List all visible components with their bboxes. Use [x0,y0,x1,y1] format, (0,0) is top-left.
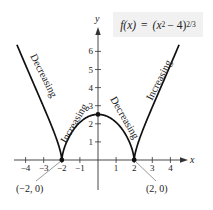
x-tick-label: −1 [75,163,85,173]
y-axis-label: y [94,13,100,24]
x-tick-label: 1 [114,163,119,173]
x-tick-label: −2 [57,163,67,173]
y-tick-label: 5 [89,65,94,75]
point-label-left: (−2, 0) [16,183,43,195]
label-decreasing-left: Decreasing [28,52,60,100]
y-tick-label: 1 [89,137,94,147]
y-tick-label: 6 [89,46,94,56]
y-axis-arrow-icon [95,27,100,35]
label-increasing-right: Increasing [144,57,174,102]
y-axis: y [94,13,101,190]
x-tick-label: 4 [168,163,173,173]
point-local-max [96,112,101,117]
point-label-right: (2, 0) [146,183,168,195]
y-tick-label: 4 [89,83,94,93]
x-axis-arrow-icon [180,157,188,162]
x-ticks: −4−3−2−11234 [21,157,173,173]
y-ticks: 123456 [89,46,102,146]
label-increasing-left: Increasing [58,101,90,145]
x-tick-label: −4 [21,163,31,173]
y-tick-label: 2 [89,119,94,129]
x-tick-label: 2 [132,163,137,173]
x-axis-label: x [189,154,195,165]
x-tick-label: 3 [150,163,155,173]
y-tick-label: 3 [89,101,94,111]
function-graph: x y −4−3−2−11234 123456 (−2, 0) (2, 0) D… [0,0,213,210]
